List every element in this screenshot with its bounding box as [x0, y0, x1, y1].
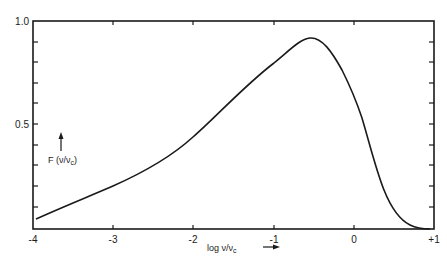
y-tick-label-1-0: 1.0 [15, 16, 29, 27]
up-arrow-head-icon [59, 132, 64, 139]
spectrum-curve [36, 38, 430, 229]
x-tick-label: +1 [428, 234, 440, 245]
x-tick-label: -2 [189, 234, 198, 245]
y-axis-title-close: ) [74, 155, 77, 165]
y-tick-label-0-5: 0.5 [15, 119, 29, 130]
x-tick-label: -4 [29, 234, 38, 245]
y-axis-title-text: F (ν/ν [48, 155, 71, 165]
svg-text:F (ν/νc): F (ν/νc) [48, 155, 77, 166]
x-axis-title-sub: c [233, 247, 237, 254]
x-axis-title-text: log ν/ν [207, 243, 234, 253]
x-tick-label: -1 [270, 234, 279, 245]
plot-frame [33, 21, 434, 229]
x-tick-label: -3 [109, 234, 118, 245]
right-arrow-head-icon [273, 245, 280, 250]
x-tick-label: 0 [351, 234, 357, 245]
chart: 1.0 0.5 -4 -3 -2 -1 0 +1 F (ν/νc) log ν/… [0, 0, 447, 267]
svg-text:log ν/νc: log ν/νc [207, 243, 237, 254]
y-axis-title: F (ν/νc) [48, 132, 77, 166]
